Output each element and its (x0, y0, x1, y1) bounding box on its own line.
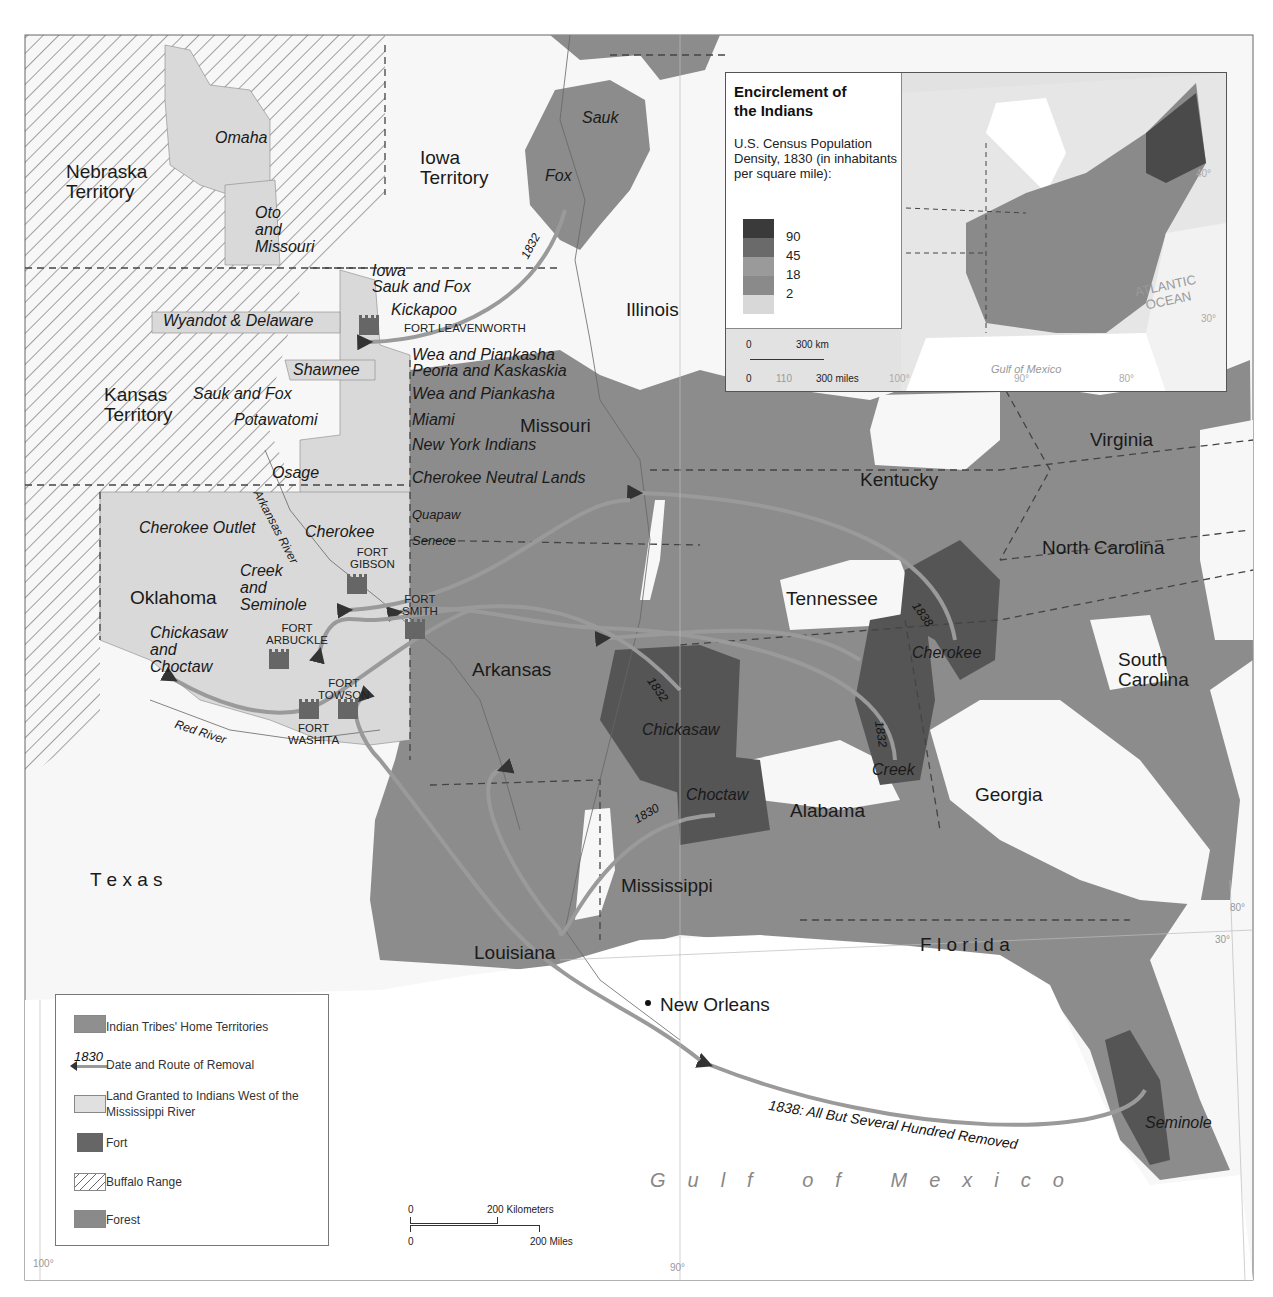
fort-icon (405, 619, 425, 639)
legend-label: Buffalo Range (106, 1175, 316, 1191)
tribe-label: New York Indians (412, 437, 536, 454)
state-label: Iowa Territory (420, 148, 489, 188)
tribe-label: Chickasaw (642, 722, 719, 739)
density-swatch-2 (743, 276, 774, 295)
fort-icon (269, 649, 289, 669)
legend-label: Land Granted to Indians West of the Miss… (106, 1089, 316, 1120)
tribe-label: Sauk (582, 110, 618, 127)
state-label: Missouri (520, 416, 591, 436)
scale-mi-bar (410, 1225, 540, 1232)
legend-label: Forest (106, 1213, 316, 1229)
water-label: Gulf of Mexico (650, 1170, 1086, 1191)
fort-icon (359, 315, 379, 335)
tribe-label: Sauk and Fox (372, 279, 471, 296)
legend-item-granted (74, 1095, 106, 1113)
legend-item-fort (74, 1133, 103, 1152)
state-label: North Carolina (1042, 538, 1165, 558)
inset-subtitle: U.S. Census Population Density, 1830 (in… (734, 137, 904, 182)
granted-swatch (74, 1095, 106, 1113)
legend-label: Date and Route of Removal (106, 1058, 316, 1074)
tribe-label: Potawatomi (234, 412, 318, 429)
tribe-label: Kickapoo (391, 302, 457, 319)
inset-scale-km-label: 300 km (796, 339, 829, 350)
tribe-label: Senece (412, 534, 456, 548)
legend-item-buffalo (74, 1173, 106, 1191)
fort-icon (299, 699, 319, 719)
scale-km-label: 200 Kilometers (487, 1204, 554, 1215)
inset-deg-30: 30° (1201, 313, 1216, 324)
city-label: New Orleans (660, 995, 770, 1015)
inset-scale-bar (750, 359, 824, 360)
tribe-label: Creek and Seminole (240, 563, 307, 613)
degree-label: 100° (33, 1259, 54, 1270)
inset-scale-mi-tick: 110 (776, 373, 792, 384)
tribe-label: Miami (412, 412, 455, 429)
inset-deg-90: 90° (1014, 373, 1029, 384)
state-label: Kansas Territory (104, 385, 173, 425)
state-label: Arkansas (472, 660, 551, 680)
legend-label: Fort (106, 1136, 316, 1152)
legend-item-route: 1830 (74, 1049, 108, 1068)
degree-label: 80° (1230, 903, 1245, 914)
fort-icon (77, 1133, 103, 1152)
state-label: Louisiana (474, 943, 555, 963)
tribe-label: Osage (272, 465, 319, 482)
inset-title: Encirclement of the Indians (734, 83, 864, 121)
fort-label: FORT TOWSON (318, 677, 370, 701)
state-label: Virginia (1090, 430, 1153, 450)
tribe-label: Cherokee Neutral Lands (412, 470, 585, 487)
fort-icon (347, 574, 367, 594)
tribe-label: Wyandot & Delaware (163, 313, 313, 330)
route-year-label: 1832 (873, 720, 889, 748)
density-label: 18 (786, 267, 800, 282)
density-label: 2 (786, 286, 793, 301)
scale-mi-zero: 0 (408, 1236, 414, 1247)
new-orleans-dot (645, 1000, 651, 1006)
state-label: Georgia (975, 785, 1043, 805)
density-label: 45 (786, 248, 800, 263)
tribe-label: Seminole (1145, 1115, 1212, 1132)
tribe-label: Quapaw (412, 508, 460, 522)
state-label: F l o r i d a (920, 935, 1010, 955)
legend-label: Indian Tribes' Home Territories (106, 1020, 316, 1036)
inset-scale-mi-label: 300 miles (816, 373, 859, 384)
tribe-label: Creek (872, 762, 915, 779)
state-label: Kentucky (860, 470, 938, 490)
tribe-label: Wea and Piankasha (412, 386, 555, 403)
homeland-swatch (74, 1015, 106, 1033)
state-label: Tennessee (786, 589, 878, 609)
route-sample: 1830 (74, 1049, 108, 1068)
inset-deg-100: 100° (889, 373, 910, 384)
tribe-label: Choctaw (686, 787, 748, 804)
tribe-label: Cherokee (305, 524, 374, 541)
fort-icon (338, 699, 358, 719)
legend-item-forest (74, 1210, 106, 1228)
legend-item-homeland (74, 1015, 106, 1033)
inset-map: Encirclement of the Indians U.S. Census … (725, 72, 1227, 392)
scale-mi-label: 200 Miles (530, 1236, 573, 1247)
inset-scale-mi-zero: 0 (746, 373, 752, 384)
density-swatch-90 (743, 219, 774, 238)
density-swatch-45 (743, 238, 774, 257)
state-label: T e x a s (90, 870, 163, 890)
fort-label: FORT GIBSON (350, 546, 395, 570)
tribe-label: Omaha (215, 130, 267, 147)
tribe-label: Shawnee (293, 362, 360, 379)
state-label: Mississippi (621, 876, 713, 896)
degree-label: 30° (1215, 935, 1230, 946)
tribe-label: Chickasaw and Choctaw (150, 625, 227, 675)
state-label: South Carolina (1118, 650, 1189, 690)
fort-label: FORT WASHITA (288, 722, 339, 746)
tribe-label: Oto and Missouri (255, 205, 315, 255)
tribe-label: Cherokee (912, 645, 981, 662)
degree-label: 90° (670, 1263, 685, 1274)
arrow-left-icon (74, 1065, 108, 1068)
hatch-swatch (74, 1173, 106, 1191)
density-swatch-0 (743, 295, 774, 314)
tribe-label: Peoria and Kaskaskia (412, 363, 567, 380)
state-label: Oklahoma (130, 588, 217, 608)
state-label: Illinois (626, 300, 679, 320)
density-swatch-18 (743, 257, 774, 276)
fort-label: FORT ARBUCKLE (266, 622, 328, 646)
scale-km-zero: 0 (408, 1204, 414, 1215)
